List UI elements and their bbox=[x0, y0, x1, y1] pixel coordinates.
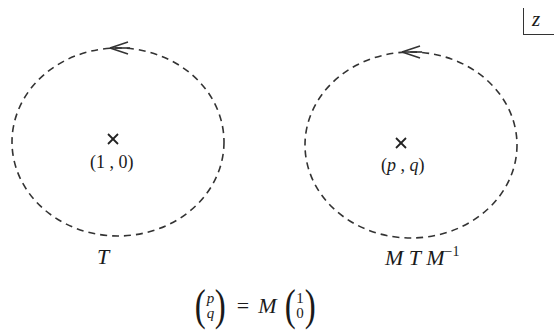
cross-marker-left-icon bbox=[108, 134, 118, 144]
right-paren: ) bbox=[215, 286, 226, 326]
var-m-inverse: M bbox=[426, 245, 444, 270]
point-label-left: (1 , 0) bbox=[90, 152, 134, 173]
z-variable: z bbox=[532, 7, 540, 32]
cross-marker-right-icon bbox=[396, 138, 406, 148]
contour-diagram bbox=[0, 0, 558, 332]
contour-mtm-inverse bbox=[305, 52, 517, 238]
left-paren: ( bbox=[195, 286, 206, 326]
comma: , bbox=[396, 155, 410, 175]
rhs-stack: 1 0 bbox=[296, 291, 304, 321]
lhs-vector: ( p q ) bbox=[193, 286, 228, 326]
paren-close: ) bbox=[419, 155, 425, 175]
matrix-m: M bbox=[258, 293, 276, 319]
var-p: p bbox=[387, 155, 396, 175]
var-m: M bbox=[385, 245, 403, 270]
arrowhead-right-icon bbox=[402, 46, 422, 58]
arrowhead-left-icon bbox=[110, 42, 130, 54]
rhs-bottom: 0 bbox=[296, 306, 304, 321]
point-label-right: (p , q) bbox=[381, 155, 425, 176]
right-paren: ) bbox=[305, 286, 316, 326]
left-paren: ( bbox=[284, 286, 295, 326]
contour-name-mtm-inverse: M T M−1 bbox=[385, 244, 459, 271]
rhs-top: 1 bbox=[296, 291, 304, 306]
var-q: q bbox=[410, 155, 419, 175]
lhs-top: p bbox=[207, 291, 215, 306]
equals-sign: = bbox=[237, 293, 249, 319]
lhs-stack: p q bbox=[207, 291, 215, 321]
relation-equation: ( p q ) = M ( 1 0 ) bbox=[193, 286, 317, 326]
complex-plane-z-label: z bbox=[523, 8, 554, 35]
rhs-vector: ( 1 0 ) bbox=[283, 286, 318, 326]
var-t: T bbox=[409, 245, 421, 270]
exponent: −1 bbox=[445, 244, 460, 259]
contour-name-t: T bbox=[97, 244, 109, 270]
lhs-bottom: q bbox=[207, 306, 215, 321]
contour-t bbox=[12, 48, 224, 236]
